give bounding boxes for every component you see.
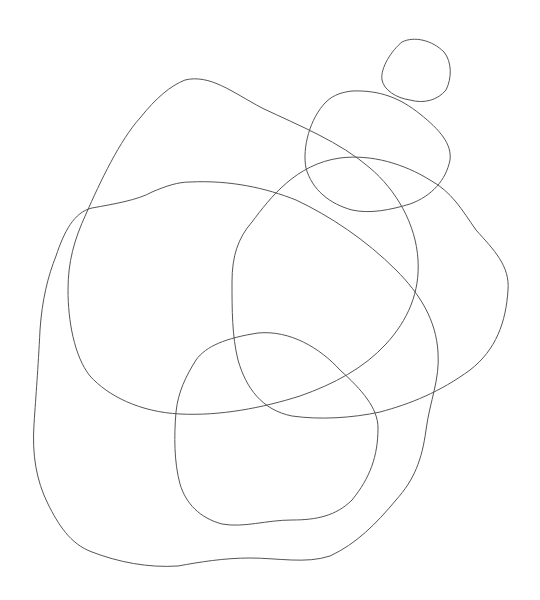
drawing-canvas	[0, 0, 540, 600]
background	[0, 0, 540, 600]
